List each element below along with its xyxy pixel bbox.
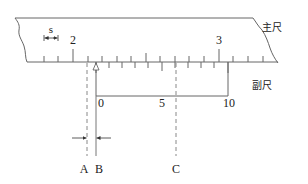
spacing-label: s [49, 23, 53, 35]
line-c-label: C [172, 162, 180, 176]
vernier-scale-label: 副尺 [252, 80, 272, 91]
spacing-dimension: s [44, 23, 58, 41]
main-scale-left-break [15, 18, 27, 62]
vernier-number-10: 10 [223, 96, 235, 110]
main-scale [15, 18, 278, 63]
line-b-label: B [95, 162, 103, 176]
vernier-scale [96, 62, 228, 96]
line-a-label: A [80, 162, 89, 176]
vernier-diagram: 2 3 s 0 5 10 [0, 0, 308, 184]
main-scale-number-3: 3 [216, 33, 222, 47]
zero-pointer-icon [93, 63, 99, 70]
vernier-ticks [96, 62, 228, 73]
main-scale-label: 主尺 [262, 22, 282, 33]
main-scale-number-2: 2 [70, 33, 76, 47]
vernier-number-5: 5 [159, 96, 165, 110]
vernier-number-0: 0 [98, 96, 104, 110]
main-scale-ticks [44, 49, 263, 62]
